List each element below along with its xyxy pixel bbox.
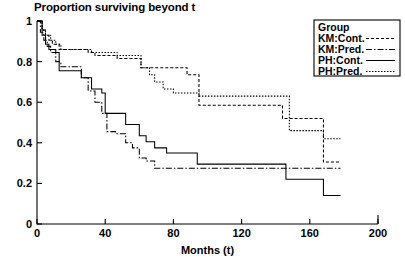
y-tick-label: 0.6 xyxy=(17,96,32,108)
x-tick-label: 200 xyxy=(369,227,387,239)
series-line xyxy=(37,21,340,139)
x-tick-label: 160 xyxy=(301,227,319,239)
series-line xyxy=(37,21,340,162)
x-tick-label: 80 xyxy=(167,227,179,239)
y-tick-label: 1 xyxy=(26,15,32,27)
y-tick-label: 0 xyxy=(26,218,32,230)
series-line xyxy=(37,21,340,196)
axis-title-x: Months (t) xyxy=(181,244,234,256)
legend-entry-label: PH:Pred. xyxy=(318,65,362,77)
survival-chart: Proportion surviving beyond t 0408012016… xyxy=(0,0,405,266)
x-axis-title: Months (t) xyxy=(181,244,234,256)
series-lines xyxy=(37,21,340,196)
y-tick-label: 0.2 xyxy=(17,177,32,189)
y-tick-label: 0.8 xyxy=(17,56,32,68)
legend: GroupKM:Cont.KM:Pred.PH:Cont.PH:Pred. xyxy=(314,20,400,77)
chart-canvas: 0408012016020000.20.40.60.81 Months (t) … xyxy=(0,0,405,266)
x-tick-label: 40 xyxy=(99,227,111,239)
series-line xyxy=(37,21,340,168)
x-tick-label: 0 xyxy=(34,227,40,239)
y-tick-label: 0.4 xyxy=(17,137,33,149)
x-tick-label: 120 xyxy=(232,227,250,239)
